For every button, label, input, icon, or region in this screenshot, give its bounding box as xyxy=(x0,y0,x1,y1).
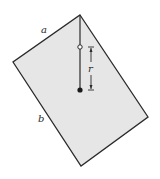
open-circle-marker xyxy=(78,45,82,49)
label-a: a xyxy=(41,24,47,35)
label-b: b xyxy=(38,113,44,124)
center-of-mass-dot xyxy=(77,87,82,92)
pivoted-plate-diagram: r a b xyxy=(0,0,160,179)
